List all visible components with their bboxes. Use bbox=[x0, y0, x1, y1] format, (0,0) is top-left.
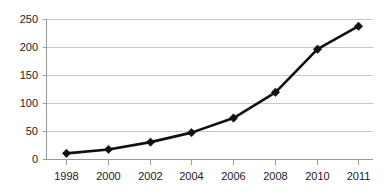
y-axis-label-150: 150 bbox=[20, 69, 38, 81]
chart-background bbox=[0, 0, 388, 196]
x-axis-label-2011: 2011 bbox=[347, 170, 371, 182]
y-axis-label-100: 100 bbox=[20, 97, 38, 109]
x-axis-label-2000: 2000 bbox=[96, 170, 120, 182]
y-axis-label-50: 50 bbox=[26, 125, 38, 137]
chart-canvas: 250 200 150 100 50 0 1998 2000 2002 2004… bbox=[0, 0, 388, 196]
x-axis-label-2010: 2010 bbox=[305, 170, 329, 182]
x-axis-label-2008: 2008 bbox=[263, 170, 287, 182]
x-axis-label-2004: 2004 bbox=[179, 170, 203, 182]
x-axis-label-1998: 1998 bbox=[54, 170, 78, 182]
line-chart: 250 200 150 100 50 0 1998 2000 2002 2004… bbox=[0, 0, 388, 196]
x-axis-label-2002: 2002 bbox=[138, 170, 162, 182]
y-axis-label-250: 250 bbox=[20, 13, 38, 25]
y-axis-label-0: 0 bbox=[32, 153, 38, 165]
y-axis-label-200: 200 bbox=[20, 41, 38, 53]
x-axis-label-2006: 2006 bbox=[221, 170, 245, 182]
